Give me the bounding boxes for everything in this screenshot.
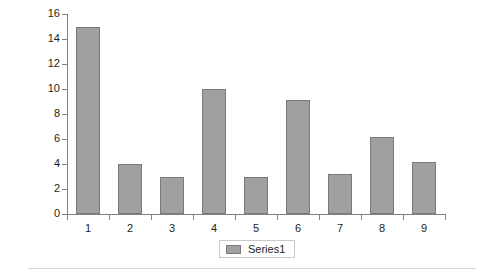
x-axis-tick-label: 5 (253, 222, 259, 234)
y-axis-tick-label: 8 (38, 108, 60, 119)
x-axis-tick (403, 215, 404, 220)
y-axis-tick (62, 189, 67, 190)
x-axis-tick-label: 1 (85, 222, 91, 234)
y-axis-tick-label: 12 (38, 58, 60, 69)
y-axis-tick (62, 14, 67, 15)
bar (412, 162, 436, 215)
y-axis-tick-label: 6 (38, 133, 60, 144)
y-axis-tick-label: 4 (38, 158, 60, 169)
x-axis-tick-label: 4 (211, 222, 217, 234)
legend-label-series1: Series1 (248, 244, 285, 255)
x-axis-tick (235, 215, 236, 220)
y-axis-tick (62, 139, 67, 140)
y-axis-tick-label: 16 (38, 8, 60, 19)
x-axis-tick-label: 9 (421, 222, 427, 234)
y-axis-tick (62, 164, 67, 165)
bar (328, 174, 352, 214)
x-axis-tick-label: 6 (295, 222, 301, 234)
bottom-divider (28, 268, 476, 269)
x-axis-tick (277, 215, 278, 220)
x-axis-tick (445, 215, 446, 220)
x-axis-tick (319, 215, 320, 220)
x-axis-tick-label: 7 (337, 222, 343, 234)
y-axis-tick (62, 64, 67, 65)
x-axis-tick (193, 215, 194, 220)
x-axis-tick (67, 215, 68, 220)
y-axis-tick-label: 0 (38, 208, 60, 219)
x-axis-tick (151, 215, 152, 220)
bar (286, 100, 310, 214)
y-axis-tick (62, 39, 67, 40)
x-axis-tick (361, 215, 362, 220)
x-axis-tick-label: 3 (169, 222, 175, 234)
bar (118, 164, 142, 214)
bar-chart: 0246810121416 123456789 Series1 (0, 0, 488, 273)
bar (244, 177, 268, 215)
x-axis-tick-label: 8 (379, 222, 385, 234)
bar (160, 177, 184, 215)
chart-legend: Series1 (219, 240, 295, 258)
bar (76, 27, 100, 215)
x-axis-tick-label: 2 (127, 222, 133, 234)
x-axis-tick-labels: 123456789 (67, 222, 445, 236)
y-axis-tick (62, 89, 67, 90)
y-axis-tick-label: 10 (38, 83, 60, 94)
legend-swatch-series1 (226, 245, 241, 254)
y-axis-tick-labels: 0246810121416 (36, 14, 60, 214)
bar (202, 89, 226, 214)
bar (370, 137, 394, 215)
y-axis-tick-label: 14 (38, 33, 60, 44)
y-axis-tick-label: 2 (38, 183, 60, 194)
x-axis-tick (109, 215, 110, 220)
x-axis-ticks (67, 215, 446, 221)
plot-area (67, 14, 445, 214)
y-axis-tick (62, 114, 67, 115)
